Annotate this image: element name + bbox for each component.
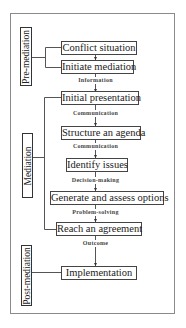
- step-conflict-situation: Conflict situation: [61, 41, 137, 55]
- step-initial-presentation: Initial presentation: [61, 91, 139, 105]
- phase-label: Pre-mediation: [21, 30, 31, 84]
- step-generate-options: Generate and assess options: [50, 191, 164, 205]
- connector-label-communication-1: Communication: [72, 110, 119, 117]
- connector-label-information: Information: [77, 77, 114, 84]
- phase-label: Mediation: [23, 146, 33, 185]
- connector-label-decision-making: Decision-making: [71, 177, 121, 184]
- phase-post-mediation: Post-mediation: [21, 245, 32, 306]
- step-implementation: Implementation: [61, 266, 137, 280]
- connector-label-problem-solving: Problem-solving: [71, 209, 119, 216]
- step-structure-agenda: Structure an agenda: [61, 126, 141, 140]
- phase-label: Post-mediation: [22, 247, 32, 305]
- connector-label-outcome: Outcome: [82, 240, 109, 247]
- step-initiate-mediation: Initiate mediation: [61, 60, 134, 74]
- phase-pre-mediation: Pre-mediation: [20, 27, 32, 86]
- step-reach-agreement: Reach an agreement: [56, 222, 142, 236]
- step-identify-issues: Identify issues: [66, 158, 128, 172]
- phase-mediation: Mediation: [22, 133, 33, 198]
- connector-label-communication-2: Communication: [72, 143, 119, 150]
